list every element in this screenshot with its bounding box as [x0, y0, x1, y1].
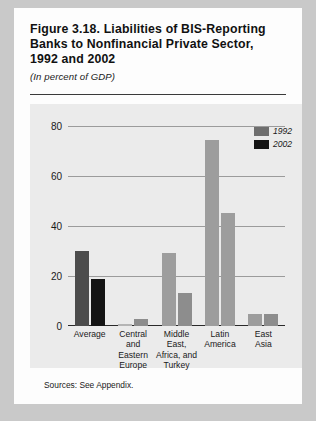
plot-area: 80 60 40 20 0: [68, 126, 285, 326]
title-block: Figure 3.18. Liabilities of BIS-Reportin…: [30, 22, 284, 82]
ytick-label-80: 80: [51, 121, 62, 132]
bar-groups: [68, 126, 285, 326]
xlabel-central-eastern-europe: CentralandEasternEurope: [111, 329, 154, 371]
bar-middle-east-africa-turkey-2002: [178, 293, 192, 326]
bar-latin-america-2002: [221, 213, 235, 326]
bar-central-eastern-europe-2002: [134, 319, 148, 326]
ytick-label-0: 0: [56, 321, 62, 332]
bar-group-central-eastern-europe: [111, 126, 154, 326]
bar-group-middle-east-africa-turkey: [155, 126, 198, 326]
bar-group-latin-america: [198, 126, 241, 326]
ytick-label-20: 20: [51, 271, 62, 282]
bar-middle-east-africa-turkey-1992: [162, 253, 176, 326]
chart-panel: 1992 2002 80 60 40: [30, 104, 302, 368]
bar-group-average: [68, 126, 111, 326]
x-axis-labels: Average CentralandEasternEurope MiddleEa…: [68, 329, 285, 371]
figure-title: Figure 3.18. Liabilities of BIS-Reportin…: [30, 22, 284, 68]
bar-east-asia-1992: [248, 314, 262, 326]
figure-sheet: Figure 3.18. Liabilities of BIS-Reportin…: [14, 8, 302, 404]
xlabel-east-asia: EastAsia: [242, 329, 285, 371]
xlabel-average: Average: [68, 329, 111, 371]
title-divider: [30, 94, 286, 95]
bar-group-east-asia: [242, 126, 285, 326]
ytick-label-60: 60: [51, 171, 62, 182]
xlabel-middle-east-africa-turkey: MiddleEast,Africa, andTurkey: [155, 329, 198, 371]
bar-average-1992: [75, 251, 89, 326]
figure-page: Figure 3.18. Liabilities of BIS-Reportin…: [0, 0, 316, 421]
sources-note: Sources: See Appendix.: [44, 380, 133, 390]
bar-latin-america-1992: [205, 140, 219, 326]
figure-subtitle: (In percent of GDP): [30, 71, 284, 82]
bar-east-asia-2002: [264, 314, 278, 326]
ytick-label-40: 40: [51, 221, 62, 232]
bar-central-eastern-europe-1992: [118, 324, 132, 326]
bar-average-2002: [91, 279, 105, 326]
xlabel-latin-america: LatinAmerica: [198, 329, 241, 371]
